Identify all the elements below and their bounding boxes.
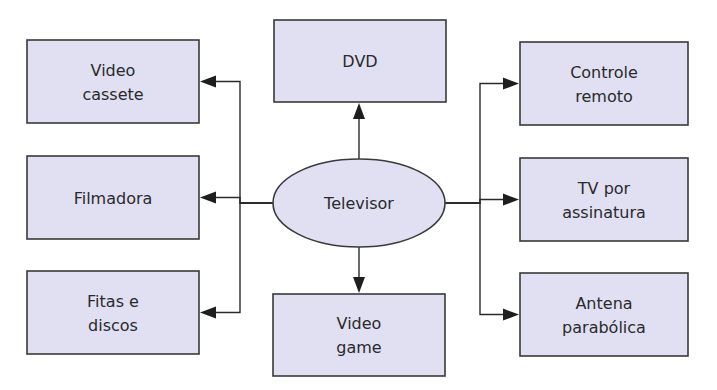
node-box	[27, 40, 199, 123]
arrowhead-filmadora	[200, 192, 216, 204]
node-label-line: game	[336, 338, 381, 357]
node-dvd: DVD	[274, 20, 446, 102]
node-label-line: remoto	[575, 87, 633, 106]
node-label-line: cassete	[82, 85, 143, 104]
arrowhead-video-game	[353, 277, 365, 293]
arrowhead-dvd	[353, 103, 365, 119]
node-label-line: Antena	[575, 294, 632, 313]
node-label-line: Controle	[570, 63, 638, 82]
node-box	[520, 42, 688, 125]
node-label-line: Video	[91, 61, 136, 80]
node-label-line: assinatura	[562, 203, 646, 222]
arrowhead-antena-parabolica	[503, 309, 519, 321]
node-antena-parabolica: Antenaparabólica	[520, 273, 688, 356]
node-label-line: Filmadora	[74, 189, 153, 208]
node-box	[520, 158, 688, 241]
node-label-line: discos	[88, 316, 138, 335]
node-label-line: Video	[337, 314, 382, 333]
node-box	[520, 273, 688, 356]
arrowhead-tv-por-assinatura	[503, 194, 519, 206]
edge-televisor-to-antena-parabolica	[445, 203, 504, 315]
node-video-game: Videogame	[273, 294, 445, 376]
node-box	[273, 294, 445, 376]
node-box	[27, 271, 199, 354]
arrowhead-fitas-e-discos	[200, 307, 216, 319]
node-label-line: TV por	[577, 179, 631, 198]
arrowhead-video-cassete	[200, 76, 216, 88]
node-label-line: Televisor	[323, 194, 394, 213]
edge-televisor-to-video-cassete	[215, 82, 273, 204]
arrowhead-controle-remoto	[503, 78, 519, 90]
node-tv-por-assinatura: TV porassinatura	[520, 158, 688, 241]
node-televisor: Televisor	[273, 159, 445, 247]
node-controle-remoto: Controleremoto	[520, 42, 688, 125]
edge-televisor-to-filmadora	[215, 198, 273, 204]
node-label-line: parabólica	[562, 318, 646, 337]
node-label-line: Fitas e	[87, 292, 139, 311]
edge-televisor-to-fitas-e-discos	[215, 203, 273, 313]
node-fitas-e-discos: Fitas ediscos	[27, 271, 199, 354]
node-video-cassete: Videocassete	[27, 40, 199, 123]
diagram-canvas: TelevisorVideocasseteFilmadoraFitas edis…	[0, 0, 717, 390]
edge-televisor-to-controle-remoto	[445, 84, 504, 204]
node-filmadora: Filmadora	[27, 156, 199, 239]
nodes-layer: TelevisorVideocasseteFilmadoraFitas edis…	[27, 20, 688, 376]
node-label-line: DVD	[342, 52, 377, 71]
